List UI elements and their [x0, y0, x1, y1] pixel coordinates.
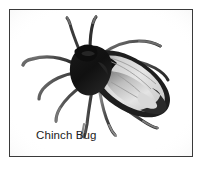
figure-card: Chinch Bug: [9, 9, 193, 157]
figure-caption: Chinch Bug: [36, 129, 96, 141]
